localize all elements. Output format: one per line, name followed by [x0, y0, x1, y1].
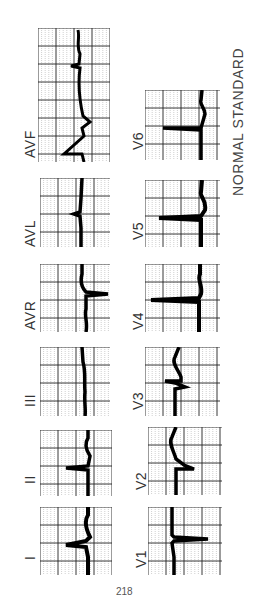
ecg-strip-iii [40, 347, 110, 416]
ecg-strip-avf [38, 28, 110, 162]
ecg-grid [145, 90, 220, 160]
ecg-grid [38, 28, 110, 162]
ecg-trace [151, 264, 201, 332]
ecg-strip-v6 [145, 90, 220, 160]
ecg-trace [165, 347, 185, 416]
lead-label-v2: V2 [133, 472, 149, 490]
ecg-strip-v2 [148, 427, 222, 495]
figure-title: NORMAL STANDARD [230, 48, 246, 196]
ecg-grid [145, 264, 220, 332]
ecg-trace [171, 427, 194, 495]
ecg-strip-ii [40, 430, 112, 496]
lead-label-v3: V3 [130, 392, 146, 410]
ecg-trace [66, 507, 90, 575]
lead-label-v4: V4 [130, 312, 146, 330]
lead-label-avl: AVL [22, 220, 38, 247]
ecg-strip-v3 [145, 347, 220, 416]
ecg-grid [148, 427, 222, 495]
ecg-trace [66, 430, 90, 496]
ecg-grid [40, 507, 112, 575]
ecg-grid [40, 264, 110, 332]
ecg-strip-i [40, 507, 112, 575]
lead-label-avf: AVF [22, 130, 38, 158]
lead-label-v5: V5 [130, 222, 146, 240]
ecg-strip-avr [40, 264, 110, 332]
ecg-grid [145, 180, 220, 247]
ecg-grid [40, 178, 110, 247]
lead-label-iii: III [22, 394, 38, 407]
ecg-strip-avl [40, 178, 110, 247]
page-number: 218 [116, 586, 133, 597]
ecg-strip-v1 [148, 507, 222, 575]
ecg-trace [82, 347, 85, 416]
ecg-grid [148, 507, 222, 575]
ecg-trace [64, 30, 90, 162]
ecg-trace [172, 507, 208, 575]
lead-label-i: I [22, 556, 38, 560]
ecg-trace [159, 180, 205, 247]
ecg-grid [40, 347, 110, 416]
ecg-grid [145, 347, 220, 416]
ecg-strip-v4 [145, 264, 220, 332]
lead-label-v6: V6 [130, 132, 146, 150]
ecg-trace [81, 264, 108, 332]
ecg-strip-v5 [145, 180, 220, 247]
ecg-grid [40, 430, 112, 496]
lead-label-v1: V1 [133, 550, 149, 568]
lead-label-ii: II [22, 475, 38, 484]
lead-label-avr: AVR [22, 301, 38, 330]
ecg-trace [74, 178, 82, 247]
